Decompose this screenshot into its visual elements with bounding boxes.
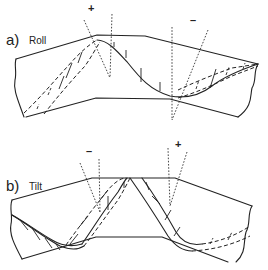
tilt-hatch — [210, 238, 213, 244]
tilt-hatch — [174, 227, 180, 236]
tilt-hatch — [228, 232, 232, 240]
tilt-hatch — [152, 196, 160, 204]
panel-tilt: b) Tilt — [6, 138, 252, 262]
roll-hatch — [37, 104, 39, 109]
panel-a-letter: a) — [6, 31, 19, 48]
panel-roll: a) Roll + – — [6, 2, 258, 120]
roll-hatch — [226, 67, 229, 75]
tilt-block-right-edge — [236, 206, 252, 262]
tilt-ridge-left-dashed — [66, 178, 126, 245]
roll-front-dashed-edge-2 — [44, 42, 100, 114]
roll-surface-curve — [97, 40, 258, 97]
tilt-right-vertical-reference-line — [168, 148, 170, 206]
tilt-block-top-edge — [12, 178, 252, 206]
roll-block-left-edge — [15, 59, 24, 117]
roll-block-right-edge — [238, 64, 258, 117]
roll-right-sign: – — [190, 14, 196, 26]
panel-a-name: Roll — [29, 35, 46, 46]
roll-block-bottom-edge — [26, 98, 238, 117]
tilt-right-sign: + — [175, 138, 181, 150]
roll-hatch — [48, 88, 51, 95]
roll-front-dashed-edge — [24, 40, 97, 113]
roll-left-sign: + — [88, 2, 94, 14]
tilt-left-vertical-reference-line — [99, 159, 100, 212]
tilt-hatch — [146, 182, 149, 190]
roll-hatch — [243, 63, 245, 69]
tilt-ridge-right-slope-2 — [142, 178, 202, 245]
tilt-left-sign: – — [86, 145, 92, 157]
tilt-left-tilted-reference-line — [80, 163, 100, 212]
tilt-hatch — [80, 216, 88, 226]
tilt-ridge-left-slope — [82, 178, 127, 244]
roll-block-top-edge — [16, 35, 258, 64]
tilt-right-basin-dashed-2 — [202, 226, 250, 244]
roll-tilt-diagram: a) Roll + – — [0, 0, 268, 270]
tilt-right-basin-dashed — [192, 236, 250, 251]
tilt-hatch — [100, 190, 108, 200]
roll-hatch — [59, 76, 64, 89]
tilt-block-left-edge — [11, 200, 22, 259]
roll-left-tilted-reference-line — [84, 20, 110, 78]
panel-b-name: Tilt — [29, 181, 42, 192]
panel-b-letter: b) — [6, 177, 19, 194]
